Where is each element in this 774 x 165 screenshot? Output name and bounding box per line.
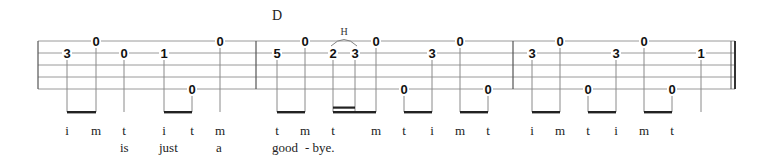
fingering-letter: t [486,123,490,138]
lyric-word: - bye. [305,140,335,155]
fingering-letter: m [639,123,649,138]
hammer-on-label: H [340,26,347,37]
beam [404,111,432,113]
fret-number: 0 [668,82,675,97]
hammer-on-slur: H [331,26,357,46]
beams [67,107,672,114]
fret-number: 0 [120,46,127,61]
lyrics: isjustagood- bye. [120,140,335,155]
fingering-letter: t [190,123,194,138]
right-hand-fingerings: imtitmtmtmtimtimtimt [65,123,674,138]
fret-number: 3 [428,46,435,61]
fret-number: 0 [400,82,407,97]
fingering-letter: m [371,123,381,138]
secondary-beam [333,107,355,109]
fret-number: 5 [273,46,280,61]
banjo-tablature: 0301005023003003003001 D H imtitmtmtmtim… [0,0,774,165]
lyric-word: a [216,140,222,155]
staff-lines [38,41,735,89]
chord-symbol: D [272,8,282,23]
fret-number: 3 [612,46,619,61]
fret-number: 3 [351,46,358,61]
fingering-letter: i [65,123,69,138]
fingering-letter: m [215,123,225,138]
fingering-letter: i [162,123,166,138]
lyric-word: just [158,140,178,155]
fingering-letter: i [430,123,434,138]
fingering-letter: t [670,123,674,138]
beam [67,111,96,113]
fingering-letter: i [530,123,534,138]
fret-number: 0 [301,34,308,49]
fingering-letter: t [275,123,279,138]
beam [164,111,192,113]
fingering-letter: m [91,123,101,138]
fingering-letter: i [614,123,618,138]
fret-number: 0 [556,34,563,49]
fret-number: 0 [372,34,379,49]
fret-number: 1 [160,46,167,61]
lyric-word: is [120,140,129,155]
fret-number: 0 [484,82,491,97]
fret-number: 3 [63,46,70,61]
lyric-word: good [272,140,299,155]
beam [588,111,616,113]
fret-number: 0 [188,82,195,97]
fret-number: 1 [697,46,704,61]
fingering-letter: t [122,123,126,138]
beam [644,111,672,113]
fingering-letter: m [300,123,310,138]
fingering-letter: t [586,123,590,138]
beam [460,111,488,113]
fret-number: 0 [216,34,223,49]
fret-number: 3 [528,46,535,61]
fret-number: 0 [640,34,647,49]
fret-number: 0 [92,34,99,49]
fingering-letter: t [331,123,335,138]
chord-symbols: D [272,8,282,23]
fret-number: 0 [584,82,591,97]
beam [277,111,305,113]
fingering-letter: t [402,123,406,138]
fingering-letter: m [455,123,465,138]
beam [532,111,560,113]
fret-number: 2 [329,46,336,61]
fret-number: 0 [456,34,463,49]
fingering-letter: m [555,123,565,138]
beam [333,111,376,113]
